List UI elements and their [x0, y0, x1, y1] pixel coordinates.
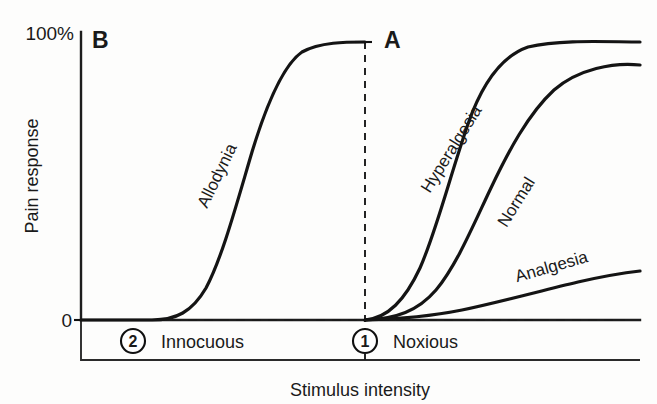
- curve-normal: [365, 64, 640, 320]
- panel-label-a: A: [384, 27, 401, 53]
- y-axis-min-label: 0: [61, 310, 72, 331]
- y-axis-title: Pain response: [22, 118, 42, 233]
- zone-label-innocuous: Innocuous: [161, 332, 244, 352]
- x-axis-title: Stimulus intensity: [290, 380, 430, 400]
- y-axis-max-label: 100%: [25, 23, 74, 44]
- curve-label-normal: Normal: [494, 174, 539, 231]
- zone-label-noxious: Noxious: [393, 332, 458, 352]
- curve-label-allodynia: Allodynia: [193, 140, 241, 211]
- panel-label-b: B: [92, 27, 109, 53]
- chart-canvas: 100% 0 Pain response Stimulus intensity …: [0, 0, 657, 404]
- threshold-marker-1-number: 1: [361, 333, 370, 350]
- pain-response-figure: 100% 0 Pain response Stimulus intensity …: [0, 0, 657, 404]
- threshold-marker-2-number: 2: [129, 333, 138, 350]
- curve-label-hyperalgesia: Hyperalgesia: [417, 102, 486, 197]
